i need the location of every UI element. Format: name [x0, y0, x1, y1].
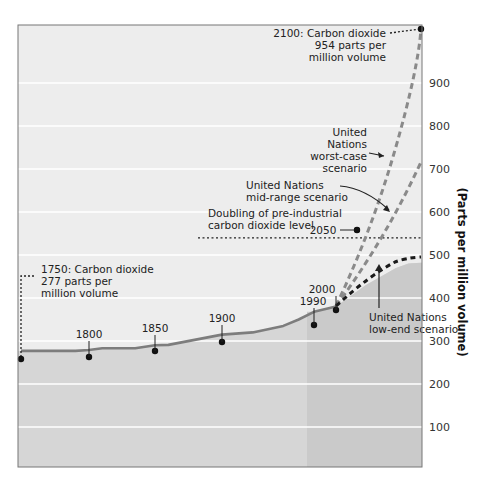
y-tick-100: 100	[429, 421, 450, 434]
y-tick-500: 500	[429, 249, 450, 262]
y-axis-ticks: 100200300400500600700800900	[429, 77, 450, 434]
y-tick-800: 800	[429, 120, 450, 133]
y-tick-700: 700	[429, 163, 450, 176]
point-label-1800: 1800	[76, 328, 103, 340]
co2-concentration-chart: 100200300400500600700800900 (Parts per m…	[0, 0, 477, 485]
annotation-1750-line: 1750: Carbon dioxide	[41, 263, 154, 275]
y-tick-200: 200	[429, 378, 450, 391]
point-label-2000: 2000	[309, 283, 336, 295]
point-1750	[18, 356, 24, 362]
y-tick-900: 900	[429, 77, 450, 90]
annotation-doubling-line: carbon dioxide level	[208, 219, 314, 231]
annotation-2100-line: 2100: Carbon dioxide	[273, 27, 386, 39]
annotation-worst-case-line: scenario	[323, 162, 367, 174]
annotation-low-end-line: United Nations	[369, 311, 447, 323]
annotation-doubling-line: Doubling of pre-industrial	[208, 207, 342, 219]
point-label-2050: 2050	[310, 224, 337, 236]
point-label-1850: 1850	[142, 322, 169, 334]
y-tick-600: 600	[429, 206, 450, 219]
annotation-worst-case-line: worst-case	[310, 150, 367, 162]
point-label-1900: 1900	[209, 312, 236, 324]
annotation-worst-case-line: Nations	[327, 138, 367, 150]
annotation-2100-line: 954 parts per	[315, 39, 387, 51]
annotation-1750-line: 277 parts per	[41, 275, 113, 287]
point-2050-marker	[354, 227, 360, 233]
annotation-worst-case-line: United	[333, 126, 368, 138]
annotation-low-end: United Nationslow-end scenario	[369, 311, 458, 335]
y-tick-400: 400	[429, 292, 450, 305]
annotation-mid-range-line: United Nations	[246, 179, 324, 191]
annotation-low-end-line: low-end scenario	[369, 323, 458, 335]
point-2100	[418, 26, 424, 32]
annotation-2100-line: million volume	[309, 51, 386, 63]
annotation-mid-range-line: mid-range scenario	[246, 191, 348, 203]
point-label-1990: 1990	[300, 295, 327, 307]
y-tick-300: 300	[429, 335, 450, 348]
annotation-1750-line: million volume	[41, 287, 118, 299]
